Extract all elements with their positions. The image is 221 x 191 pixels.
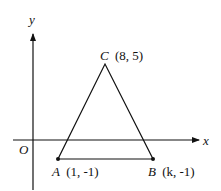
point-b-label: B (k, -1)	[148, 164, 195, 179]
point-b-dot	[151, 157, 155, 161]
point-a-dot	[56, 157, 60, 161]
coordinate-diagram: y x O C (8, 5) A (1, -1) B (k, -1)	[0, 0, 221, 191]
point-a-label: A (1, -1)	[51, 164, 99, 179]
x-axis-label: x	[202, 133, 209, 148]
y-axis-label: y	[27, 12, 35, 27]
origin-label: O	[19, 142, 29, 157]
point-c-label: C (8, 5)	[100, 48, 143, 63]
triangle-abc	[58, 64, 153, 159]
